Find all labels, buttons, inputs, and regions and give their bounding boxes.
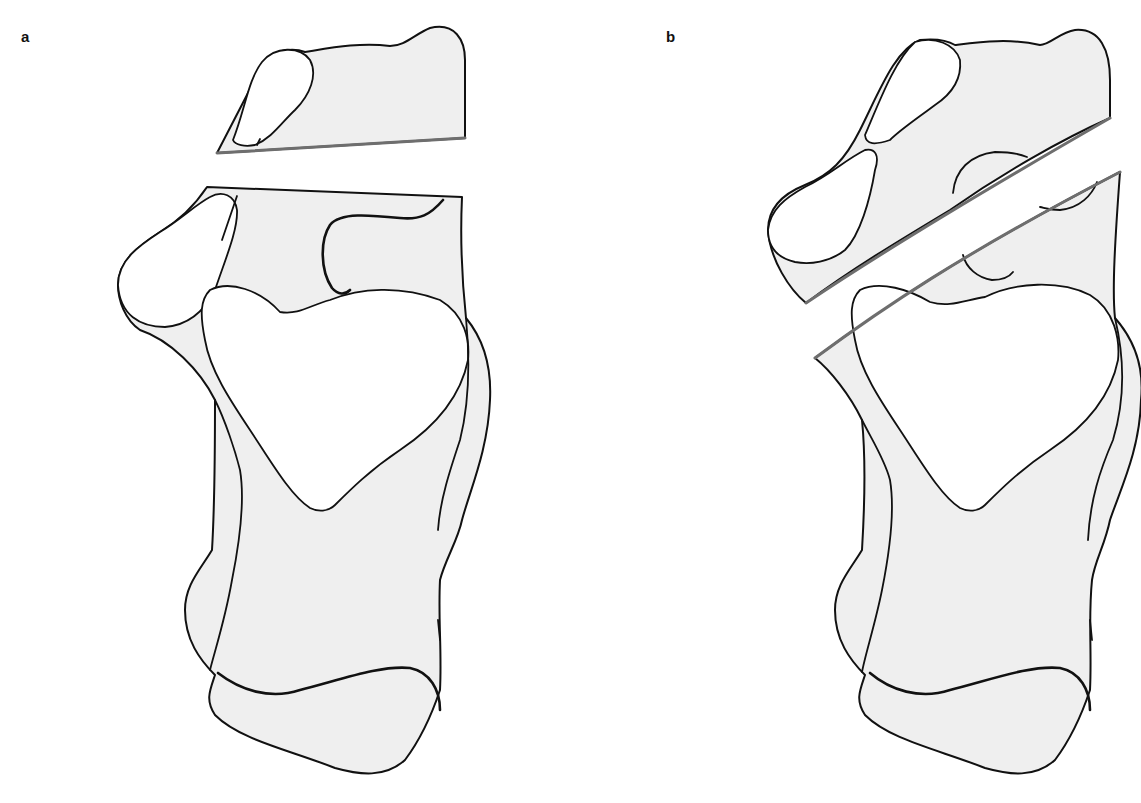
panel-a <box>118 27 490 774</box>
panel-a-lower-body <box>118 187 490 773</box>
figure-canvas <box>0 0 1141 803</box>
panel-a-upper-fragment <box>217 27 465 153</box>
panel-b <box>768 30 1141 774</box>
